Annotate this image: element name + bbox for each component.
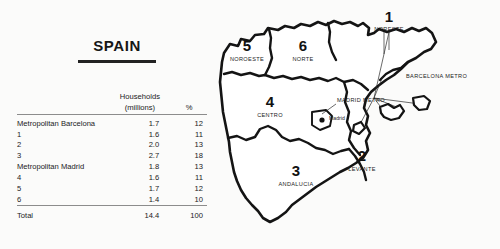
island-menorca: [413, 96, 430, 110]
title-block: SPAIN: [57, 38, 177, 63]
total-households: 14.4: [115, 206, 172, 222]
island-mallorca: [380, 104, 404, 120]
table-row: 2 2.0 13: [17, 140, 207, 151]
madrid-city-dot: [319, 117, 324, 122]
column-header-region: [17, 92, 115, 114]
table-footer: Total 14.4 100: [17, 206, 207, 222]
map-panel: 1 NORESTE 5 NOROESTE 6 NORTE 4 CENTRO 2 …: [208, 0, 500, 249]
row-label: Metropolitan Barcelona: [17, 114, 115, 129]
total-label: Total: [17, 206, 115, 222]
table-total-row: Total 14.4 100: [17, 206, 207, 222]
row-label: Metropolitan Madrid: [17, 162, 115, 173]
row-label: 6: [17, 195, 115, 206]
row-households: 1.6: [115, 173, 172, 184]
region-number-1: 1: [385, 8, 393, 25]
region-number-4: 4: [266, 93, 275, 110]
row-percent: 11: [171, 130, 207, 141]
column-header-households: Households (millions): [115, 92, 172, 114]
row-percent: 12: [171, 184, 207, 195]
row-households: 2.0: [115, 140, 172, 151]
row-households: 1.7: [115, 114, 172, 129]
table-row: 4 1.6 11: [17, 173, 207, 184]
region-number-2: 2: [358, 147, 366, 164]
row-percent: 10: [171, 195, 207, 206]
title-underline-rule: [78, 60, 156, 63]
region-name-4: CENTRO: [257, 112, 283, 118]
spain-regions-map: 1 NORESTE 5 NOROESTE 6 NORTE 4 CENTRO 2 …: [208, 0, 500, 249]
table-row: Metropolitan Madrid 1.8 13: [17, 162, 207, 173]
row-households: 1.7: [115, 184, 172, 195]
region-name-5: NOROESTE: [230, 56, 264, 62]
row-percent: 11: [171, 173, 207, 184]
households-header-line2: (millions): [115, 103, 166, 114]
row-households: 2.7: [115, 151, 172, 162]
total-percent: 100: [171, 206, 207, 222]
region-name-3: ANDALUCIA: [278, 181, 313, 187]
table-row: Metropolitan Barcelona 1.7 12: [17, 114, 207, 129]
region-number-3: 3: [292, 162, 300, 179]
households-table: Households (millions) % Metropolitan Bar…: [17, 92, 207, 222]
region-name-2: LEVANTE: [348, 166, 376, 172]
barcelona-metro-label: BARCELONA METRO: [406, 73, 467, 79]
table-header-row: Households (millions) %: [17, 92, 207, 114]
row-households: 1.6: [115, 130, 172, 141]
table-row: 5 1.7 12: [17, 184, 207, 195]
table-body: Metropolitan Barcelona 1.7 12 1 1.6 11 2…: [17, 114, 207, 206]
row-label: 2: [17, 140, 115, 151]
row-households: 1.8: [115, 162, 172, 173]
table-header: Households (millions) %: [17, 92, 207, 114]
row-percent: 13: [171, 162, 207, 173]
row-percent: 12: [171, 114, 207, 129]
region-name-1: NORESTE: [374, 26, 404, 32]
column-header-percent: %: [171, 92, 207, 114]
madrid-city-label: Madrid: [329, 115, 345, 121]
table-row: 6 1.4 10: [17, 195, 207, 206]
row-label: 1: [17, 130, 115, 141]
row-households: 1.4: [115, 195, 172, 206]
region-number-6: 6: [299, 37, 307, 54]
row-percent: 18: [171, 151, 207, 162]
madrid-metro-label: MADRID METRO: [337, 97, 385, 103]
row-label: 5: [17, 184, 115, 195]
left-panel: SPAIN Households (millions) % Metropolit…: [0, 0, 222, 249]
table-row: 1 1.6 11: [17, 130, 207, 141]
row-label: 3: [17, 151, 115, 162]
row-percent: 13: [171, 140, 207, 151]
region-number-5: 5: [243, 37, 251, 54]
page-title: SPAIN: [57, 38, 177, 53]
table-row: 3 2.7 18: [17, 151, 207, 162]
households-header-line1: Households: [120, 92, 160, 101]
region-name-6: NORTE: [292, 56, 313, 62]
row-label: 4: [17, 173, 115, 184]
